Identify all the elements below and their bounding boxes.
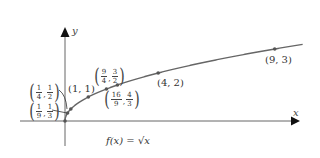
y-axis-label: y — [72, 26, 78, 36]
origin-point — [63, 119, 67, 123]
x-axis-label: x — [293, 108, 299, 118]
point-label-1-1: (1, 1) — [68, 84, 95, 94]
point-label-9-3: (9, 3) — [265, 55, 292, 65]
point-label-9-4: ( 94 , 32 ) — [93, 66, 126, 86]
function-label: f(x) = √x — [106, 136, 150, 146]
y-axis-arrow-icon — [61, 27, 70, 37]
point-label-4-2: (4, 2) — [157, 78, 184, 88]
data-point — [273, 47, 277, 51]
point-label-16-9: ( 169 , 43 ) — [103, 89, 141, 109]
data-point — [69, 107, 73, 111]
point-label-1-9: ( 19 , 13 ) — [28, 101, 61, 121]
data-point — [87, 95, 91, 99]
data-point — [156, 71, 160, 75]
data-point — [66, 111, 70, 115]
